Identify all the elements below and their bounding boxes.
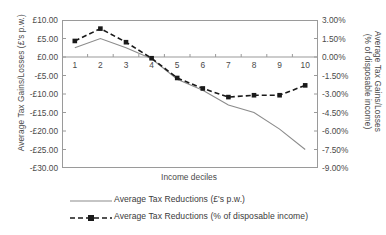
right-axis-title-line2: (% of disposable income): [363, 2, 373, 162]
left-axis-tick-label: -£5.00: [12, 71, 58, 81]
left-axis-tick-label: £5.00: [12, 34, 58, 44]
data-point-marker: [201, 86, 206, 91]
left-axis-tick-marks: [62, 20, 66, 168]
left-axis-tick-label: -£20.00: [12, 126, 58, 136]
right-axis-tick-label: -7.50%: [322, 145, 368, 155]
x-axis-tick-label: 5: [167, 60, 187, 71]
data-point-marker: [73, 39, 78, 44]
legend-key-dashed-line: [68, 210, 114, 222]
x-axis-tick-label: 6: [193, 60, 213, 71]
x-axis-tick-label: 2: [90, 60, 110, 71]
data-point-marker: [277, 93, 282, 98]
legend-item-pounds: Average Tax Reductions (£'s p.w.): [0, 190, 386, 207]
right-axis-tick-marks: [314, 20, 318, 168]
right-axis-tick-label: 1.50%: [322, 34, 368, 44]
x-axis-tick-label: 7: [218, 60, 238, 71]
right-axis-tick-label: 0.00%: [322, 52, 368, 62]
right-axis-title: Average Tax Gains/Losses (% of disposabl…: [363, 2, 382, 162]
legend-label-percent: Average Tax Reductions (% of disposable …: [114, 211, 308, 221]
x-axis-tick-label: 1: [65, 60, 85, 71]
data-point-marker: [226, 95, 231, 100]
left-axis-tick-label: -£15.00: [12, 108, 58, 118]
right-axis-title-line1: Average Tax Gains/Losses: [373, 31, 383, 132]
x-axis-tick-label: 9: [270, 60, 290, 71]
x-axis-tick-label: 8: [244, 60, 264, 71]
left-axis-tick-label: -£10.00: [12, 89, 58, 99]
x-axis-title: Income deciles: [60, 172, 318, 182]
data-point-marker: [252, 93, 257, 98]
right-axis-tick-label: -4.50%: [322, 108, 368, 118]
left-axis-tick-label: £0.00: [12, 52, 58, 62]
data-point-marker: [98, 26, 103, 31]
x-axis-tick-label: 4: [142, 60, 162, 71]
right-axis-tick-label: 3.00%: [322, 15, 368, 25]
left-axis-tick-label: -£25.00: [12, 145, 58, 155]
data-point-marker: [124, 40, 129, 45]
x-axis-tick-label: 3: [116, 60, 136, 71]
right-axis-tick-label: -3.00%: [322, 89, 368, 99]
chart-legend: Average Tax Reductions (£'s p.w.) Averag…: [0, 190, 386, 224]
legend-key-solid-line: [68, 193, 114, 205]
data-point-marker: [175, 76, 180, 81]
left-axis-tick-label: -£30.00: [12, 163, 58, 173]
right-axis-tick-label: -6.00%: [322, 126, 368, 136]
x-axis-tick-label: 10: [295, 60, 315, 71]
left-axis-tick-label: £10.00: [12, 15, 58, 25]
right-axis-tick-label: -9.00%: [322, 163, 368, 173]
data-point-marker: [303, 83, 308, 88]
plot-svg: [62, 20, 318, 168]
legend-item-percent: Average Tax Reductions (% of disposable …: [0, 207, 386, 224]
legend-label-pounds: Average Tax Reductions (£'s p.w.): [114, 194, 245, 204]
right-axis-tick-label: -1.50%: [322, 71, 368, 81]
chart-container: Average Tax Gains/Losses (£'s p.w.) £10.…: [0, 0, 386, 235]
